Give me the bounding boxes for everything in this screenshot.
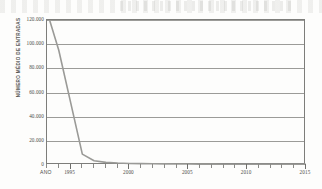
x-axis-tick-labels: ANO 19952000200520102015 — [0, 169, 322, 181]
x-tick-mark — [164, 164, 165, 168]
y-tick-label: 60.000 — [14, 89, 44, 95]
x-tick-mark — [46, 164, 47, 168]
scan-artifact-top — [0, 0, 322, 13]
x-tick-mark — [293, 164, 294, 168]
x-axis-title: ANO — [40, 169, 52, 175]
y-tick-label: 20.000 — [14, 137, 44, 143]
x-tick-mark — [270, 164, 271, 168]
gridline — [47, 141, 304, 142]
gridline — [47, 117, 304, 118]
y-tick-label: 80.000 — [14, 64, 44, 70]
x-tick-mark — [234, 164, 235, 168]
x-tick-label: 2000 — [123, 169, 134, 175]
x-tick-mark — [81, 164, 82, 168]
plot-area — [46, 19, 305, 164]
x-tick-label: 2015 — [300, 169, 311, 175]
chart-figure: NÚMERO MÉDIO DE ENTRADAS 020.00040.00060… — [0, 0, 322, 189]
x-tick-mark — [211, 164, 212, 168]
x-tick-mark — [152, 164, 153, 168]
x-tick-label: 1995 — [64, 169, 75, 175]
y-tick-label: 0 — [14, 161, 44, 167]
x-tick-label: 2005 — [182, 169, 193, 175]
x-tick-mark — [93, 164, 94, 168]
scan-artifact-text — [120, 1, 295, 11]
y-axis-tick-labels: 020.00040.00060.00080.000100.000120.000 — [14, 0, 44, 189]
x-tick-mark — [140, 164, 141, 168]
gridline — [47, 68, 304, 69]
x-tick-mark — [105, 164, 106, 168]
gridline — [47, 20, 304, 21]
x-tick-mark — [58, 164, 59, 168]
x-tick-mark — [176, 164, 177, 168]
x-tick-mark — [223, 164, 224, 168]
gridline — [47, 93, 304, 94]
gridline — [47, 44, 304, 45]
x-tick-mark — [281, 164, 282, 168]
x-tick-label: 2010 — [241, 169, 252, 175]
x-tick-mark — [199, 164, 200, 168]
y-tick-label: 40.000 — [14, 113, 44, 119]
x-tick-mark — [117, 164, 118, 168]
y-tick-label: 100.000 — [14, 40, 44, 46]
y-tick-label: 120.000 — [14, 16, 44, 22]
x-tick-mark — [258, 164, 259, 168]
